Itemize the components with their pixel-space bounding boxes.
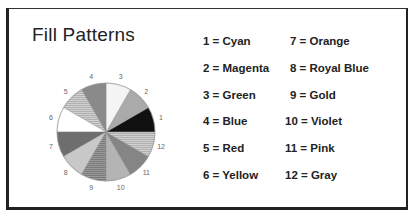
legend-item-7: 7 = Orange (290, 35, 350, 47)
slice-label-11: 11 (143, 169, 150, 176)
legend-item-12: 12 = Gray (285, 169, 337, 181)
legend-item-1: 1 = Cyan (203, 35, 251, 47)
legend-item-3: 3 = Green (203, 89, 256, 101)
pie-chart: 123456789101112 (0, 0, 417, 220)
slice-label-9: 9 (89, 184, 93, 191)
slice-label-7: 7 (49, 143, 53, 150)
slice-label-8: 8 (64, 169, 68, 176)
legend-item-11: 11 = Pink (285, 142, 335, 154)
slice-label-4: 4 (89, 73, 93, 80)
slice-label-12: 12 (157, 143, 165, 150)
slice-label-3: 3 (119, 73, 123, 80)
slice-label-10: 10 (117, 184, 125, 191)
pie-slices (57, 83, 155, 181)
legend-item-9: 9 = Gold (290, 89, 336, 101)
legend-item-6: 6 = Yellow (203, 169, 258, 181)
slice-label-2: 2 (144, 88, 148, 95)
slice-label-6: 6 (49, 114, 53, 121)
legend-item-10: 10 = Violet (285, 115, 342, 127)
legend-item-5: 5 = Red (203, 142, 244, 154)
legend-item-4: 4 = Blue (203, 115, 247, 127)
slice-label-5: 5 (64, 88, 68, 95)
legend-item-8: 8 = Royal Blue (290, 62, 369, 74)
slice-label-1: 1 (159, 114, 163, 121)
legend-item-2: 2 = Magenta (203, 62, 269, 74)
